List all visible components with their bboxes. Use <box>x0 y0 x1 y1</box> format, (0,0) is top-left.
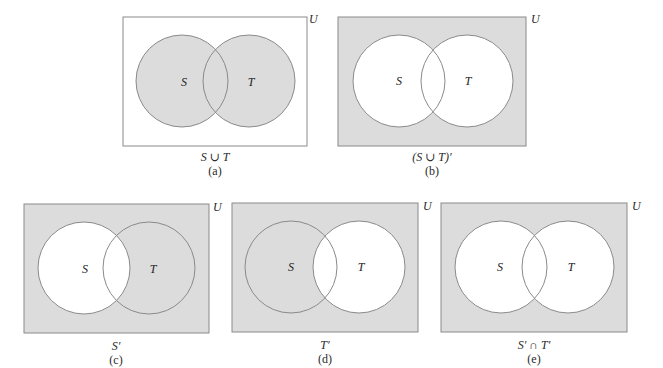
caption-label-c: (c) <box>76 353 156 367</box>
set-label-t-c: T <box>150 262 157 277</box>
diagram-a <box>123 17 307 146</box>
caption-label-e: (e) <box>494 352 574 366</box>
set-label-t-a: T <box>248 75 255 90</box>
universe-label-b: U <box>531 12 540 27</box>
universe-label-b-top: U <box>309 12 318 27</box>
venn-diagrams-canvas <box>0 0 663 368</box>
caption-label-a: (a) <box>175 164 255 178</box>
caption-a: S ∪ T (a) <box>175 150 255 178</box>
expression-e: S′ ∩ T′ <box>494 338 574 352</box>
set-label-s-e: S <box>497 260 503 275</box>
set-label-t-e: T <box>568 260 575 275</box>
caption-e: S′ ∩ T′ (e) <box>494 338 574 366</box>
diagram-d <box>232 203 418 332</box>
expression-b: (S ∪ T)′ <box>392 150 472 164</box>
set-label-s-c: S <box>82 262 88 277</box>
caption-label-d: (d) <box>285 352 365 366</box>
set-label-s-d: S <box>288 260 294 275</box>
set-label-t-b: T <box>465 74 472 89</box>
diagram-e <box>441 203 627 332</box>
caption-c: S′ (c) <box>76 339 156 367</box>
caption-d: T′ (d) <box>285 338 365 366</box>
expression-d: T′ <box>285 338 365 352</box>
expression-c: S′ <box>76 339 156 353</box>
caption-b: (S ∪ T)′ (b) <box>392 150 472 178</box>
set-label-s-b: S <box>396 74 402 89</box>
diagram-c <box>24 204 209 333</box>
caption-label-b: (b) <box>392 164 472 178</box>
expression-a: S ∪ T <box>175 150 255 164</box>
universe-label-d: U <box>423 199 432 214</box>
universe-label-c: U <box>213 200 222 215</box>
set-label-t-d: T <box>358 260 365 275</box>
set-label-s-a: S <box>181 75 187 90</box>
diagram-b <box>338 17 526 146</box>
universe-label-e: U <box>632 199 641 214</box>
